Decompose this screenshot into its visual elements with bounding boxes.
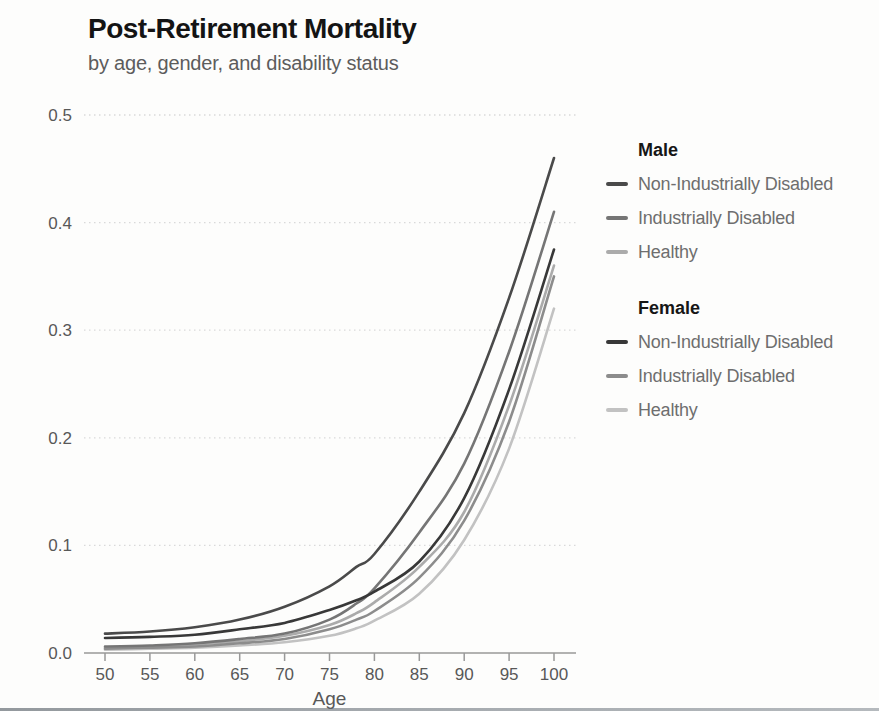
legend-label: Healthy <box>638 400 698 421</box>
line-swatch-icon <box>606 374 628 378</box>
x-tick-label: 60 <box>185 665 204 684</box>
x-tick-label: 55 <box>140 665 159 684</box>
legend-label: Non-Industrially Disabled <box>638 332 833 353</box>
line-swatch-icon <box>606 182 628 186</box>
legend-label: Non-Industrially Disabled <box>638 174 833 195</box>
x-tick-label: 65 <box>230 665 249 684</box>
legend-spacer <box>606 262 879 298</box>
line-swatch-icon <box>606 216 628 220</box>
legend-item-female-healthy: Healthy <box>606 400 879 420</box>
legend-label: Industrially Disabled <box>638 208 795 229</box>
legend-label: Healthy <box>638 242 698 263</box>
x-tick-label: 85 <box>410 665 429 684</box>
line-swatch-icon <box>606 408 628 412</box>
series-line-male-healthy <box>105 266 554 648</box>
x-axis-title: Age <box>313 688 347 709</box>
x-tick-label: 100 <box>540 665 568 684</box>
legend-item-female-industrially-disabled: Industrially Disabled <box>606 366 879 386</box>
legend-label: Industrially Disabled <box>638 366 795 387</box>
series-line-male-industrially-disabled <box>105 212 554 647</box>
x-tick-label: 95 <box>500 665 519 684</box>
chart-page: Post-Retirement Mortality by age, gender… <box>0 0 879 711</box>
series-line-male-non-industrially-disabled <box>105 158 554 634</box>
x-tick-label: 90 <box>455 665 474 684</box>
x-tick-label: 50 <box>96 665 115 684</box>
legend-group-title-female: Female <box>638 298 879 318</box>
y-tick-label: 0.0 <box>48 644 72 663</box>
y-tick-label: 0.4 <box>48 214 72 233</box>
line-swatch-icon <box>606 250 628 254</box>
chart-legend: Male Non-Industrially Disabled Industria… <box>606 140 879 420</box>
legend-item-male-non-industrially-disabled: Non-Industrially Disabled <box>606 174 879 194</box>
series-line-female-non-industrially-disabled <box>105 250 554 638</box>
legend-item-female-non-industrially-disabled: Non-Industrially Disabled <box>606 332 879 352</box>
y-tick-label: 0.5 <box>48 106 72 125</box>
y-tick-label: 0.1 <box>48 536 72 555</box>
legend-item-male-industrially-disabled: Industrially Disabled <box>606 208 879 228</box>
y-tick-label: 0.2 <box>48 429 72 448</box>
line-swatch-icon <box>606 340 628 344</box>
legend-group-title-male: Male <box>638 140 879 160</box>
x-tick-label: 75 <box>320 665 339 684</box>
y-tick-label: 0.3 <box>48 321 72 340</box>
legend-group-male: Male Non-Industrially Disabled Industria… <box>606 140 879 262</box>
x-tick-label: 80 <box>365 665 384 684</box>
legend-group-female: Female Non-Industrially Disabled Industr… <box>606 298 879 420</box>
legend-item-male-healthy: Healthy <box>606 242 879 262</box>
x-tick-label: 70 <box>275 665 294 684</box>
